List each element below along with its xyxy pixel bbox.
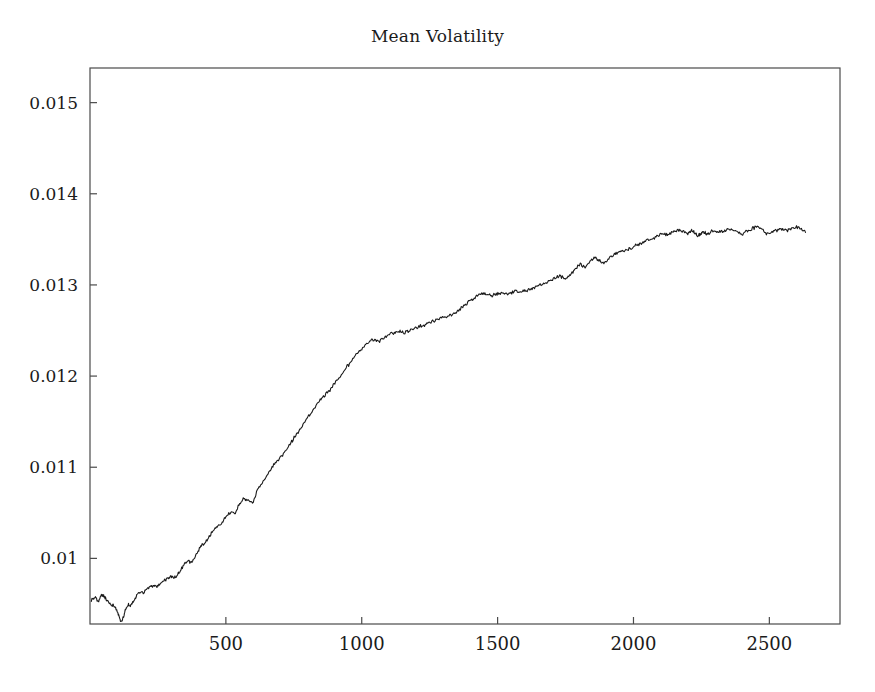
series-1-polyline bbox=[91, 226, 805, 622]
x-tick-label: 2500 bbox=[746, 633, 792, 654]
axis-box bbox=[90, 68, 840, 624]
y-axis-tick-labels: 0.010.0110.0120.0130.0140.015 bbox=[29, 93, 78, 569]
axis-frame bbox=[90, 68, 840, 624]
y-tick-label: 0.015 bbox=[29, 93, 78, 113]
x-axis-ticks bbox=[226, 617, 769, 624]
x-tick-label: 500 bbox=[209, 633, 243, 654]
data-series-line bbox=[91, 226, 805, 622]
chart-plot-area: 5001000150020002500 0.010.0110.0120.0130… bbox=[0, 0, 875, 692]
x-tick-label: 1000 bbox=[339, 633, 385, 654]
y-axis-ticks bbox=[90, 103, 97, 559]
y-tick-label: 0.013 bbox=[29, 275, 78, 295]
y-tick-label: 0.014 bbox=[29, 184, 78, 204]
x-tick-label: 1500 bbox=[475, 633, 521, 654]
y-tick-label: 0.01 bbox=[40, 548, 78, 568]
y-tick-label: 0.011 bbox=[29, 457, 78, 477]
x-tick-label: 2000 bbox=[611, 633, 657, 654]
x-axis-tick-labels: 5001000150020002500 bbox=[209, 633, 793, 654]
figure-container: Mean Volatility 5001000150020002500 0.01… bbox=[0, 0, 875, 692]
y-tick-label: 0.012 bbox=[29, 366, 78, 386]
